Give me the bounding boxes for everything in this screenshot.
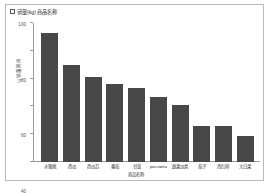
bar[interactable]	[106, 84, 123, 162]
bar-slot	[234, 23, 256, 162]
bar[interactable]	[193, 126, 210, 162]
bar-slot	[148, 23, 170, 162]
plot-area: 020406080100	[33, 23, 260, 162]
checkbox-unchecked-icon[interactable]	[10, 9, 15, 14]
bar[interactable]	[237, 136, 254, 162]
bar-slot	[82, 23, 104, 162]
x-axis-title: 商品名称	[6, 171, 265, 177]
legend-item-label: 销量(kg) 商品名称	[17, 9, 57, 15]
y-axis-tick-label: 100	[18, 22, 26, 23]
bar-slot	[61, 23, 83, 162]
bar-slot	[169, 23, 191, 162]
bar-slot	[126, 23, 148, 162]
bar-slot	[213, 23, 235, 162]
bar-slot	[104, 23, 126, 162]
bar[interactable]	[85, 77, 102, 162]
bar-slot	[191, 23, 213, 162]
bar[interactable]	[41, 33, 58, 162]
bar[interactable]	[63, 65, 80, 162]
bar[interactable]	[150, 97, 167, 162]
bar-slot	[39, 23, 61, 162]
bar[interactable]	[172, 105, 189, 162]
chart-container: 销量(kg) 商品名称 以销量排序 020406080100 水蜜桃西瓜西瓜芯番…	[5, 4, 264, 181]
bar-series	[33, 23, 260, 162]
bar[interactable]	[128, 88, 145, 162]
bar[interactable]	[215, 126, 232, 162]
chart-legend[interactable]: 销量(kg) 商品名称	[10, 7, 57, 16]
